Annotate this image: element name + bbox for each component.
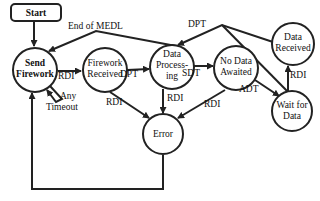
- node-firework-received-line2: Received: [87, 69, 123, 79]
- node-send-firework: Send Firework: [13, 48, 57, 92]
- label-dr-dpt: DPT: [188, 19, 206, 29]
- node-data-received: Data Received: [272, 23, 314, 65]
- label-fw-error-rdi: RDI: [106, 97, 122, 107]
- label-wfd-rdi: RDI: [290, 70, 306, 80]
- label-nda-error-rdi: RDI: [204, 99, 220, 109]
- node-no-data-awaited-line1: No Data: [220, 56, 253, 66]
- node-data-received-line2: Received: [275, 43, 311, 53]
- label-end-of-medl: End of MEDL: [68, 21, 123, 31]
- label-adt: ADT: [239, 84, 259, 94]
- node-data-processing-line1: Data: [163, 49, 182, 59]
- node-wait-for-data-line1: Wait for: [276, 100, 308, 110]
- node-wait-for-data: Wait for Data: [272, 91, 312, 131]
- node-no-data-awaited-line2: Awaited: [220, 67, 252, 77]
- node-firework-received-line1: Firework: [88, 58, 123, 68]
- label-any: Any: [60, 91, 77, 101]
- node-error: Error: [143, 114, 183, 154]
- node-start: Start: [11, 4, 61, 21]
- node-data-processing: Data Process- ing: [150, 45, 194, 89]
- edge-nodata-to-waitfordata: [255, 80, 279, 96]
- node-send-firework-line1: Send: [25, 58, 46, 68]
- node-send-firework-line2: Firework: [16, 69, 55, 79]
- node-wait-for-data-line2: Data: [283, 111, 302, 121]
- label-sdt: SDT: [182, 68, 200, 78]
- edge-end-of-medl: [49, 31, 176, 51]
- node-start-label: Start: [26, 8, 47, 18]
- node-error-label: Error: [153, 129, 174, 139]
- label-fw-dpt: DPT: [120, 69, 138, 79]
- label-dp-error-rdi: RDI: [167, 93, 183, 103]
- node-data-received-line1: Data: [284, 32, 303, 42]
- label-timeout: Timeout: [46, 102, 78, 112]
- node-data-processing-line3: ing: [166, 71, 178, 81]
- state-diagram: Start Send Firework Firework Received Da…: [0, 0, 320, 201]
- label-send-rdi: RDI: [58, 71, 74, 81]
